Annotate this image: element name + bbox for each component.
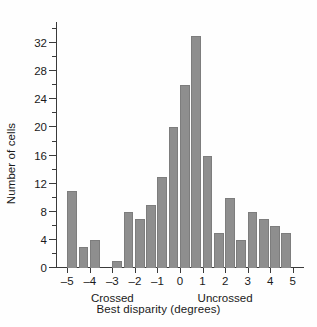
histogram-bar — [191, 36, 201, 268]
histogram-bar — [79, 247, 89, 268]
y-tick-mark — [49, 267, 56, 268]
x-tick-label: –2 — [129, 275, 142, 287]
x-tick-mark — [293, 268, 294, 273]
y-tick-mark — [49, 126, 56, 127]
y-minor-tick-mark — [52, 197, 56, 198]
y-tick-mark — [49, 98, 56, 99]
y-tick-mark — [49, 155, 56, 156]
y-minor-tick-mark — [52, 141, 56, 142]
y-tick-label: 32 — [34, 37, 47, 49]
histogram-bar — [225, 198, 235, 268]
x-tick-label: 3 — [244, 275, 250, 287]
histogram-bar — [124, 212, 134, 268]
histogram-bar — [270, 226, 280, 268]
x-axis-title: Best disparity (degrees) — [0, 303, 317, 315]
y-tick-mark — [49, 239, 56, 240]
y-tick-label: 12 — [34, 178, 47, 190]
x-tick-mark — [270, 268, 271, 273]
x-tick-label: –4 — [83, 275, 96, 287]
histogram-bar — [248, 212, 258, 268]
y-axis-line — [56, 22, 57, 268]
y-tick-label: 0 — [41, 262, 47, 274]
y-minor-tick-mark — [52, 225, 56, 226]
y-minor-tick-mark — [52, 169, 56, 170]
histogram-bar — [259, 219, 269, 268]
x-tick-mark — [225, 268, 226, 273]
y-tick-label: 24 — [34, 93, 47, 105]
histogram-bar — [169, 127, 179, 268]
x-tick-label: –3 — [106, 275, 119, 287]
y-axis-title: Number of cells — [0, 0, 22, 327]
x-tick-label: 2 — [222, 275, 228, 287]
x-tick-mark — [135, 268, 136, 273]
histogram-bar — [157, 177, 167, 268]
x-tick-mark — [67, 268, 68, 273]
y-tick-label: 28 — [34, 65, 47, 77]
x-tick-label: –1 — [151, 275, 164, 287]
histogram-bar — [146, 205, 156, 268]
y-tick-label: 4 — [41, 234, 47, 246]
y-tick-mark — [49, 183, 56, 184]
x-tick-mark — [157, 268, 158, 273]
plot-area: 048121620242832 –5–4–3–2–1012345 Crossed… — [56, 22, 304, 268]
x-tick-label: 4 — [267, 275, 273, 287]
y-tick-label: 16 — [34, 150, 47, 162]
histogram-figure: Number of cells 048121620242832 –5–4–3–2… — [0, 0, 317, 327]
y-minor-tick-mark — [52, 56, 56, 57]
y-minor-tick-mark — [52, 112, 56, 113]
histogram-bar — [203, 156, 213, 268]
x-tick-mark — [248, 268, 249, 273]
histogram-bar — [281, 233, 291, 268]
histogram-bar — [135, 219, 145, 268]
x-tick-mark — [203, 268, 204, 273]
y-minor-tick-mark — [52, 28, 56, 29]
y-tick-mark — [49, 211, 56, 212]
x-tick-label: 1 — [199, 275, 205, 287]
y-tick-label: 20 — [34, 121, 47, 133]
x-tick-label: –5 — [61, 275, 74, 287]
x-tick-mark — [112, 268, 113, 273]
histogram-bar — [90, 240, 100, 268]
y-minor-tick-mark — [52, 253, 56, 254]
histogram-bar — [180, 85, 190, 268]
histogram-bar — [214, 233, 224, 268]
y-tick-mark — [49, 70, 56, 71]
y-minor-tick-mark — [52, 84, 56, 85]
y-tick-label: 8 — [41, 206, 47, 218]
x-tick-mark — [90, 268, 91, 273]
histogram-bar — [112, 261, 122, 268]
x-tick-label: 5 — [290, 275, 296, 287]
histogram-bar — [236, 240, 246, 268]
y-tick-mark — [49, 42, 56, 43]
x-tick-mark — [180, 268, 181, 273]
x-tick-label: 0 — [177, 275, 183, 287]
histogram-bar — [67, 191, 77, 268]
